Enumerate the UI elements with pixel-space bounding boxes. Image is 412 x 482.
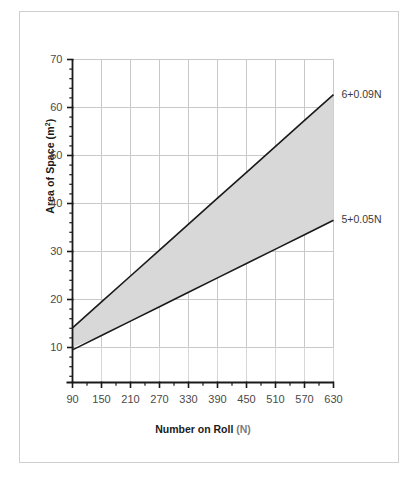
plot-area xyxy=(0,0,412,482)
x-tick-label: 630 xyxy=(314,394,354,405)
y-tick-label: 30 xyxy=(29,246,63,257)
x-axis-title-variable: (N) xyxy=(236,423,251,435)
band-fill xyxy=(73,95,334,348)
curve-label-6+0.09N: 6+0.09N xyxy=(342,88,382,100)
y-tick-label: 10 xyxy=(29,342,63,353)
y-tick-label: 50 xyxy=(29,150,63,161)
y-tick-label: 70 xyxy=(29,54,63,65)
y-tick-label: 20 xyxy=(29,294,63,305)
curve-label-5+0.05N: 5+0.05N xyxy=(342,213,382,225)
y-axis-title-tail: ) xyxy=(44,119,56,123)
recommended-range-band xyxy=(73,95,334,348)
x-axis-title-text: Number on Roll xyxy=(155,423,233,435)
y-axis-title-superscript: 2 xyxy=(44,122,51,126)
y-tick-label: 60 xyxy=(29,102,63,113)
x-axis-title: Number on Roll (N) xyxy=(72,423,334,435)
y-tick-label: 40 xyxy=(29,198,63,209)
chart-canvas: Area of Space (m2) Number on Roll (N) 10… xyxy=(0,0,412,482)
